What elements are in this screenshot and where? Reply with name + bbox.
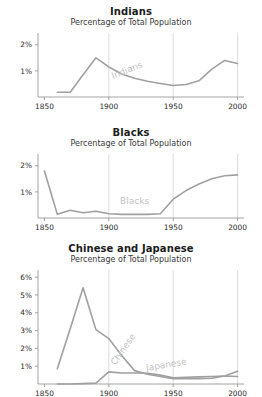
- x-tick-label: 1850: [35, 102, 54, 111]
- plot-svg-chinese-and-japanese: 1%2%3%4%5%6%1850190019502000ChineseJapan…: [0, 265, 262, 397]
- y-tick-label: 1%: [20, 67, 32, 76]
- chart-panel-blacks: Blacks Percentage of Total Population 1%…: [0, 127, 262, 234]
- plot-area-indians: 1%2%1850190019502000Indians: [0, 28, 262, 113]
- x-tick-label: 1950: [164, 223, 183, 232]
- inline-series-label-japanese: Japanese: [144, 356, 187, 372]
- x-tick-label: 2000: [228, 223, 247, 232]
- y-tick-label: 2%: [20, 344, 32, 353]
- plot-area-chinese-and-japanese: 1%2%3%4%5%6%1850190019502000ChineseJapan…: [0, 265, 262, 397]
- x-tick-label: 2000: [228, 102, 247, 111]
- inline-series-label-indians: Indians: [110, 59, 144, 81]
- plot-svg-indians: 1%2%1850190019502000Indians: [0, 28, 262, 113]
- inline-series-label-chinese: Chinese: [109, 331, 138, 367]
- y-tick-label: 1%: [20, 362, 32, 371]
- chart-panel-indians: Indians Percentage of Total Population 1…: [0, 6, 262, 113]
- y-tick-label: 6%: [20, 273, 32, 282]
- x-tick-label: 1950: [164, 389, 183, 397]
- y-tick-label: 2%: [20, 161, 32, 170]
- chart-subtitle-indians: Percentage of Total Population: [0, 18, 262, 28]
- series-line-blacks: [44, 171, 237, 214]
- x-tick-label: 1850: [35, 223, 54, 232]
- chart-title-indians: Indians: [0, 6, 262, 18]
- x-tick-label: 1850: [35, 389, 54, 397]
- y-tick-label: 2%: [20, 40, 32, 49]
- y-tick-label: 1%: [20, 188, 32, 197]
- series-line-indians: [57, 58, 237, 92]
- x-tick-label: 1900: [99, 102, 118, 111]
- x-tick-label: 1900: [99, 389, 118, 397]
- chart-subtitle-chinese-and-japanese: Percentage of Total Population: [0, 255, 262, 265]
- chart-title-blacks: Blacks: [0, 127, 262, 139]
- y-tick-label: 3%: [20, 326, 32, 335]
- x-tick-label: 2000: [228, 389, 247, 397]
- chart-subtitle-blacks: Percentage of Total Population: [0, 139, 262, 149]
- x-tick-label: 1950: [164, 102, 183, 111]
- chart-panel-chinese-and-japanese: Chinese and Japanese Percentage of Total…: [0, 243, 262, 397]
- x-tick-label: 1900: [99, 223, 118, 232]
- figure-container: Indians Percentage of Total Population 1…: [0, 0, 262, 397]
- plot-area-blacks: 1%2%1850190019502000Blacks: [0, 149, 262, 234]
- plot-svg-blacks: 1%2%1850190019502000Blacks: [0, 149, 262, 234]
- y-tick-label: 5%: [20, 291, 32, 300]
- inline-series-label-blacks: Blacks: [120, 196, 149, 206]
- chart-title-chinese-and-japanese: Chinese and Japanese: [0, 243, 262, 255]
- y-tick-label: 4%: [20, 308, 32, 317]
